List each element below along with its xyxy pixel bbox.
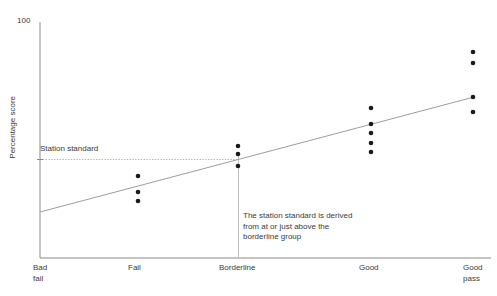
data-point bbox=[369, 131, 374, 136]
x-tick-label-good-pass: Good pass bbox=[463, 263, 483, 284]
chart-container: 100 Percentage score Station standard Th… bbox=[0, 0, 497, 296]
data-point bbox=[471, 95, 476, 100]
data-point bbox=[136, 174, 141, 179]
data-point bbox=[471, 61, 476, 66]
y-axis-title: Percentage score bbox=[8, 96, 18, 159]
y-axis-tick-label-100: 100 bbox=[17, 16, 30, 26]
x-tick-label-borderline: Borderline bbox=[219, 263, 255, 274]
data-point bbox=[236, 144, 241, 149]
data-point bbox=[236, 152, 241, 157]
data-point bbox=[369, 141, 374, 146]
station-standard-label: Station standard bbox=[40, 144, 98, 154]
data-point bbox=[136, 199, 141, 204]
data-point bbox=[369, 150, 374, 155]
trend-line bbox=[40, 97, 474, 212]
data-point bbox=[236, 164, 241, 169]
x-tick-label-good: Good bbox=[359, 263, 379, 274]
x-tick-label-bad-fail: Bad fail bbox=[33, 263, 47, 284]
derivation-note: The station standard is derived from at … bbox=[243, 211, 352, 243]
data-point bbox=[369, 106, 374, 111]
data-point bbox=[136, 190, 141, 195]
x-tick-label-fail: Fail bbox=[128, 263, 141, 274]
data-point bbox=[471, 50, 476, 55]
data-point bbox=[471, 110, 476, 115]
data-point bbox=[369, 122, 374, 127]
